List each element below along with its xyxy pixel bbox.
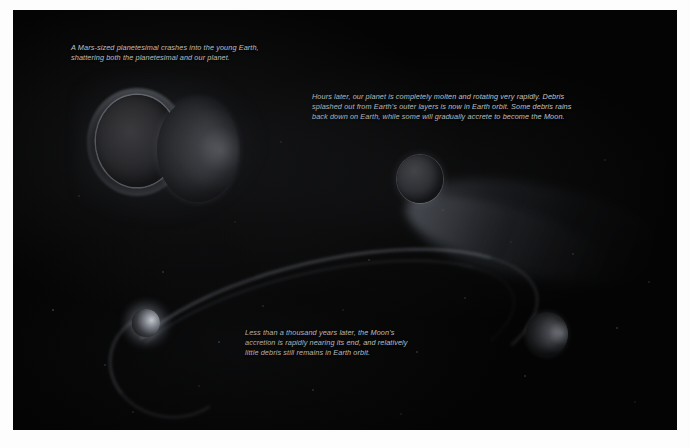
molten-earth-body (397, 155, 443, 203)
earth-impact-limb-highlight (157, 98, 239, 202)
caption-molten: Hours later, our planet is completely mo… (312, 92, 642, 123)
caption-impact: A Mars-sized planetesimal crashes into t… (71, 43, 331, 63)
moon-limb-highlight (526, 312, 568, 356)
young-earth-body (132, 309, 160, 337)
caption-accretion: Less than a thousand years later, the Mo… (245, 328, 475, 359)
figure-page: A Mars-sized planetesimal crashes into t… (0, 0, 690, 448)
artwork-plate: A Mars-sized planetesimal crashes into t… (13, 10, 677, 430)
